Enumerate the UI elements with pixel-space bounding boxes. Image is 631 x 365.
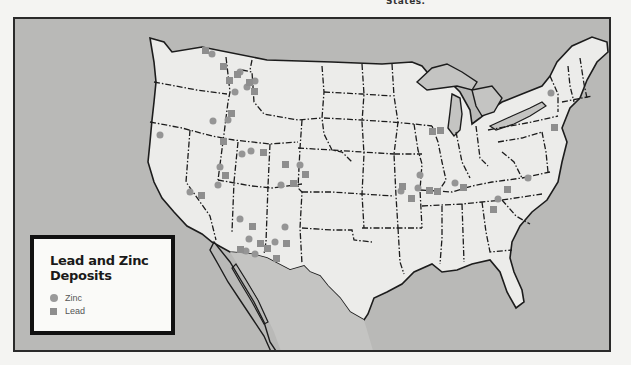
legend-item-lead: Lead [50,306,171,316]
legend-title: Lead and Zinc Deposits [50,253,171,283]
us-landmass [148,37,608,320]
legend-item-zinc: Zinc [50,293,171,303]
square-icon [50,308,57,315]
circle-icon [50,294,58,302]
legend-items: Zinc Lead [50,293,171,316]
map-legend: Lead and Zinc Deposits Zinc Lead [30,235,175,335]
top-caption-fragment: States. [386,0,426,6]
lake-superior [417,64,477,90]
map-frame: Lead and Zinc Deposits Zinc Lead [13,17,611,352]
legend-title-line2: Deposits [50,268,171,283]
legend-label-lead: Lead [65,306,85,316]
legend-title-line1: Lead and Zinc [50,253,171,268]
legend-label-zinc: Zinc [65,293,82,303]
